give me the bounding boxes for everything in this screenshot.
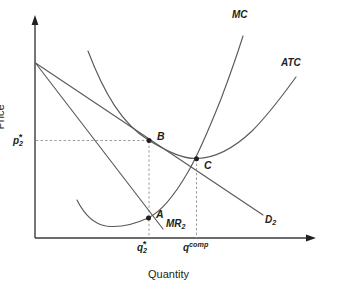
curve-label-mc: MC: [232, 10, 248, 20]
x-tick-label-qcomp: qcomp: [183, 243, 208, 253]
y-tick-label-p2: p2*: [13, 136, 27, 146]
y-axis-title: Price: [0, 104, 6, 129]
point-b-marker: [147, 138, 152, 143]
curve-label-mr2-text: MR: [166, 218, 182, 229]
point-label-b: B: [157, 131, 165, 142]
curve-label-d2-subscript: 2: [272, 218, 276, 227]
atc-curve: [88, 51, 296, 159]
curve-label-mr2: MR2: [166, 219, 186, 229]
point-a-marker: [146, 216, 151, 221]
y-axis-arrowhead: [32, 15, 39, 25]
x-axis: [35, 235, 316, 242]
x-tick-label-q2: q2*: [137, 243, 151, 253]
curve-label-atc: ATC: [281, 58, 301, 68]
point-c-marker: [194, 156, 199, 161]
curve-label-mr2-subscript: 2: [182, 222, 186, 231]
plot-canvas: [0, 0, 344, 291]
x-tick-q2-star: *: [143, 239, 147, 249]
point-label-c: C: [204, 160, 212, 171]
curve-label-d2: D2: [265, 215, 276, 225]
marginal-revenue-curve-mr2: [36, 63, 164, 229]
x-axis-arrowhead: [306, 235, 316, 242]
x-axis-title: Quantity: [148, 268, 189, 280]
x-tick-qcomp-superscript: comp: [189, 240, 208, 249]
economics-diagram-figure: MC ATC D2 MR2 B C A p2* q2* qcomp Quanti…: [0, 0, 344, 291]
y-tick-p2-star: *: [19, 132, 23, 142]
y-axis: [32, 15, 39, 238]
point-label-a: A: [156, 209, 164, 220]
